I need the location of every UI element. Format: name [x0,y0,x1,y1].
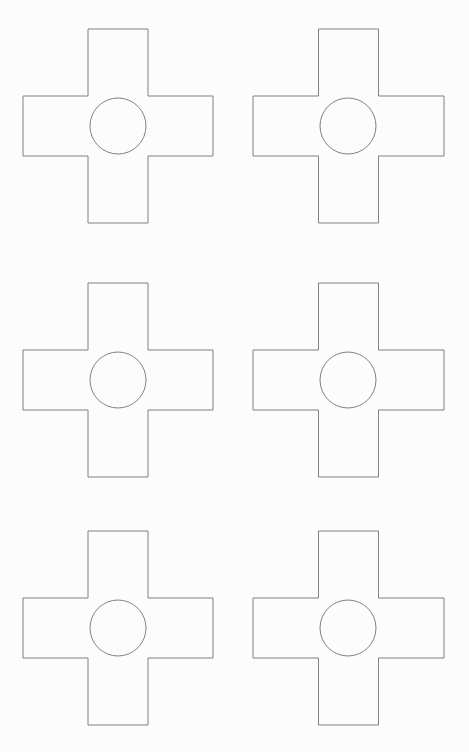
center-circle-5[interactable] [90,600,146,656]
template-sheet [0,0,469,752]
center-circle-3[interactable] [90,352,146,408]
center-circle-2[interactable] [320,98,376,154]
center-circle-1[interactable] [90,98,146,154]
center-circle-6[interactable] [320,600,376,656]
center-circle-4[interactable] [320,352,376,408]
cross-template-canvas [0,0,469,752]
